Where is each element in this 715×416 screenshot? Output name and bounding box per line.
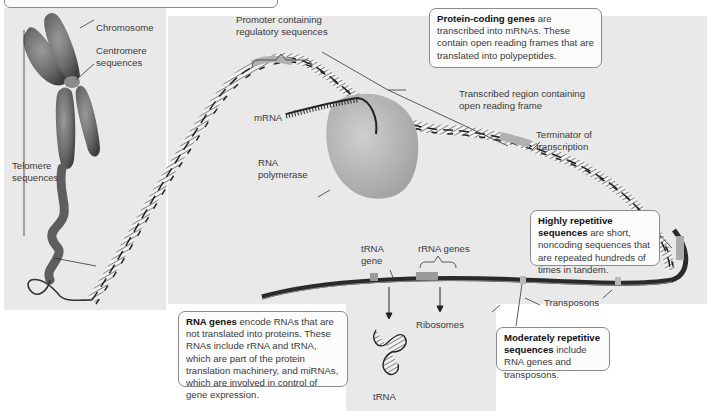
moderately-repetitive-callout: Moderately repetitive sequences include … xyxy=(496,327,610,371)
transcribed-region-label: Transcribed region containing open readi… xyxy=(459,88,585,111)
rna-genes-callout: RNA genes encode RNAs that are not trans… xyxy=(178,311,348,387)
centromere-label: Centromere sequences xyxy=(96,45,147,68)
protein-coding-callout: Protein-coding genes are transcribed int… xyxy=(429,8,602,68)
highly-repetitive-callout: Highly repetitive sequences are short, n… xyxy=(530,210,660,266)
trna-gene-label: tRNA gene xyxy=(361,243,384,266)
callout-text: encode RNAs that are not translated into… xyxy=(186,316,338,400)
trna-label: tRNA xyxy=(373,391,396,403)
ribosomes-label: Ribosomes xyxy=(416,319,464,331)
mrna-label: mRNA xyxy=(254,112,282,124)
rrna-genes-label: rRNA genes xyxy=(418,243,470,255)
arrow-icon xyxy=(386,287,443,319)
chromosome-label: Chromosome xyxy=(96,22,154,34)
trna-icon xyxy=(374,330,406,374)
promoter-label: Promoter containing regulatory sequences xyxy=(236,14,328,37)
terminator-label: Terminator of transcription xyxy=(536,129,592,152)
callout-bold: Protein-coding genes xyxy=(437,13,535,24)
chromosome-icon xyxy=(23,13,100,300)
transposons-label: Transposons xyxy=(544,297,599,309)
rna-polymerase-label: RNA polymerase xyxy=(258,157,308,180)
telomere-label: Telomere sequences xyxy=(12,160,58,183)
callout-bold: RNA genes xyxy=(186,316,237,327)
